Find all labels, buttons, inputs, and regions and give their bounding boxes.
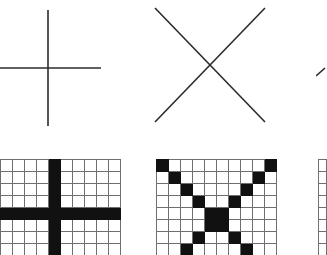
grid-cell-filled — [157, 160, 169, 172]
grid-cell-empty — [97, 220, 109, 232]
grid-cell-empty — [109, 160, 121, 172]
grid-cell-empty — [97, 184, 109, 196]
grid-cell-empty — [73, 184, 85, 196]
grid-cell-empty — [73, 172, 85, 184]
grid-row — [319, 220, 327, 232]
grid-cell-filled — [205, 208, 217, 220]
grid-cell-empty — [217, 184, 229, 196]
grid-row — [157, 208, 277, 220]
grid-row — [1, 184, 121, 196]
grid-row — [319, 172, 327, 184]
grid-cell-empty — [253, 220, 265, 232]
grid-cell-filled — [241, 244, 253, 255]
grid-cell-empty — [97, 244, 109, 255]
grid-cell-empty — [205, 196, 217, 208]
grid-cell-empty — [181, 160, 193, 172]
grid-cell-filled — [49, 160, 61, 172]
grid-cell-empty — [157, 172, 169, 184]
grid-cell-empty — [37, 172, 49, 184]
grid-cell-empty — [253, 184, 265, 196]
grid-cell-empty — [73, 244, 85, 255]
grid-cell-empty — [241, 220, 253, 232]
grid-cell-empty — [25, 196, 37, 208]
grid-cell-filled — [49, 220, 61, 232]
grid-cell-filled — [241, 184, 253, 196]
grid-cell-empty — [217, 196, 229, 208]
grid-cell-filled — [97, 208, 109, 220]
grid-cell-empty — [169, 196, 181, 208]
grid-cell-filled — [73, 208, 85, 220]
plus-sign-line-drawing — [0, 0, 112, 140]
grid-cell-empty — [61, 196, 73, 208]
grid-row — [1, 232, 121, 244]
grid-cell-empty — [1, 184, 13, 196]
grid-cell-filled — [217, 220, 229, 232]
grid-cell-empty — [85, 232, 97, 244]
grid-cell-empty — [265, 208, 277, 220]
grid-row — [319, 232, 327, 244]
grid-cell-empty — [73, 196, 85, 208]
grid-cell-empty — [253, 244, 265, 255]
grid-cell-empty — [241, 208, 253, 220]
grid-cell-empty — [25, 232, 37, 244]
grid-cell-empty — [97, 160, 109, 172]
grid-cell-empty — [253, 160, 265, 172]
grid-row — [319, 208, 327, 220]
grid-cell-empty — [25, 172, 37, 184]
grid-cell-empty — [157, 184, 169, 196]
grid-cell-empty — [193, 244, 205, 255]
grid-cell-filled — [49, 172, 61, 184]
grid-cell-filled — [193, 232, 205, 244]
grid-cell-empty — [205, 160, 217, 172]
grid-cell-empty — [37, 244, 49, 255]
grid-cell-empty — [205, 244, 217, 255]
third-shape-rasterized-grid-clipped — [318, 159, 327, 255]
grid-row — [157, 244, 277, 255]
grid-cell-filled — [49, 232, 61, 244]
grid-cell-empty — [205, 232, 217, 244]
grid-cell-filled — [13, 208, 25, 220]
grid-cell-filled — [217, 208, 229, 220]
grid-cell-empty — [265, 172, 277, 184]
grid-cell-empty — [157, 220, 169, 232]
grid-cell-empty — [241, 172, 253, 184]
grid-cell-empty — [109, 244, 121, 255]
grid-cell-empty — [1, 160, 13, 172]
grid-cell-empty — [193, 172, 205, 184]
grid-cell-filled — [85, 208, 97, 220]
figure-canvas — [0, 0, 327, 255]
grid-cell-empty — [181, 196, 193, 208]
grid-cell-empty — [37, 184, 49, 196]
grid-cell-empty — [73, 160, 85, 172]
grid-cell-empty — [13, 172, 25, 184]
grid-cell-empty — [73, 232, 85, 244]
grid-cell-empty — [229, 244, 241, 255]
grid-cell-empty — [319, 220, 327, 232]
grid-cell-empty — [13, 232, 25, 244]
grid-cell-filled — [37, 208, 49, 220]
grid-cell-empty — [169, 184, 181, 196]
grid-cell-empty — [25, 184, 37, 196]
grid-cell-filled — [181, 244, 193, 255]
grid-cell-filled — [1, 208, 13, 220]
grid-cell-empty — [253, 232, 265, 244]
grid-row — [157, 232, 277, 244]
grid-cell-filled — [169, 172, 181, 184]
grid-cell-empty — [265, 232, 277, 244]
grid-row — [157, 184, 277, 196]
grid-cell-filled — [253, 172, 265, 184]
grid-cell-empty — [193, 184, 205, 196]
grid-cell-filled — [49, 196, 61, 208]
grid-cell-empty — [319, 196, 327, 208]
grid-cell-empty — [253, 208, 265, 220]
grid-cell-filled — [193, 196, 205, 208]
grid-cell-empty — [169, 244, 181, 255]
grid-cell-empty — [157, 232, 169, 244]
grid-cell-empty — [1, 172, 13, 184]
grid-cell-empty — [169, 208, 181, 220]
grid-cell-empty — [169, 232, 181, 244]
grid-cell-filled — [229, 196, 241, 208]
grid-cell-filled — [49, 244, 61, 255]
grid-cell-empty — [109, 196, 121, 208]
grid-cell-empty — [217, 160, 229, 172]
